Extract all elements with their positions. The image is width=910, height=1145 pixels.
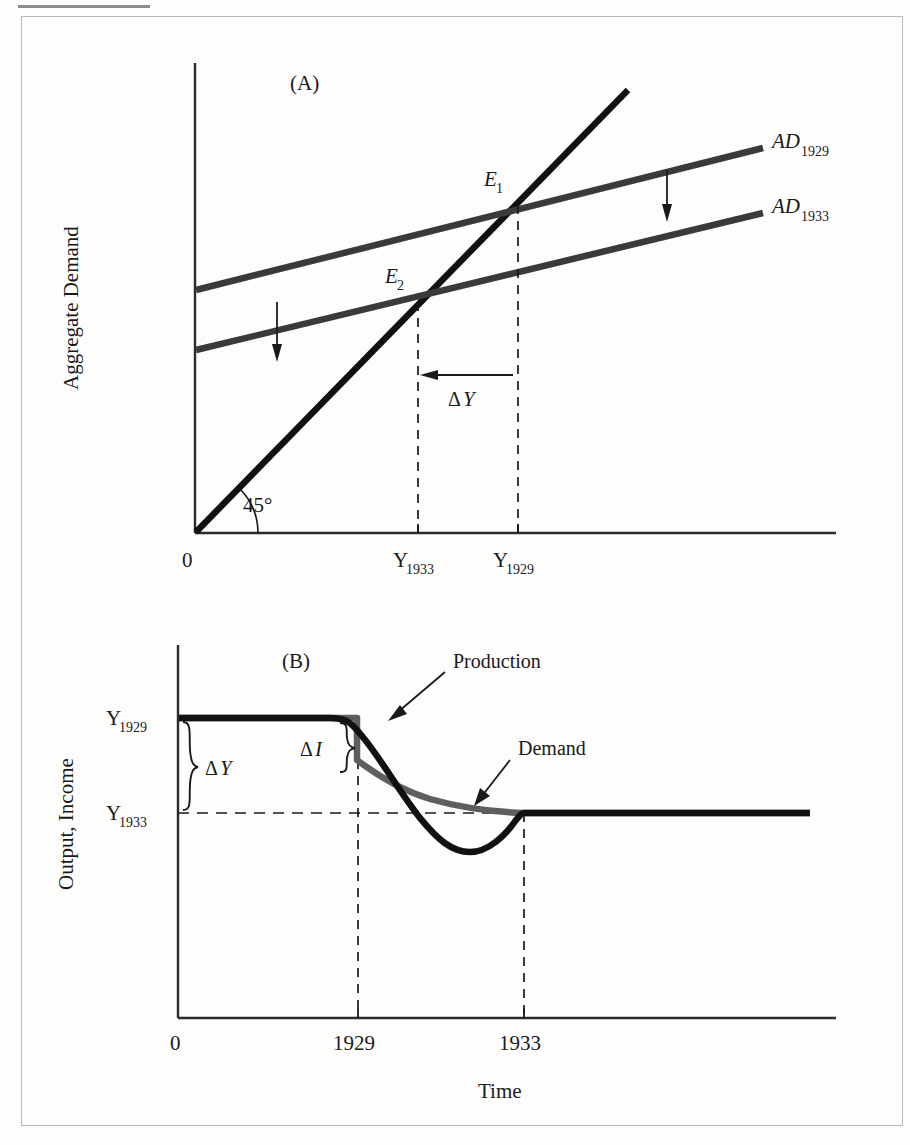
panel-a-label: (A) (290, 71, 319, 95)
panel-a-delta-y-label-delta: Δ (448, 388, 461, 410)
panel-b-demand-curve (179, 718, 810, 813)
panel-b-ytick-label-y1933: Y 1933 (106, 801, 147, 830)
panel-b-label: (B) (282, 649, 310, 673)
panel-a-ad1929-label-sub: 1929 (801, 144, 829, 159)
panel-a-ad1933-line (196, 213, 763, 350)
panel-b-delta-y-label: Δ Y (205, 756, 234, 780)
panel-b: (B) Output, Income Y 1929 Y 1933 Δ Y Δ I… (0, 600, 910, 1145)
panel-b-delta-i-label-delta: Δ (300, 738, 313, 760)
panel-a-down-arrow-right (662, 170, 672, 222)
panel-a-delta-y-arrow (420, 370, 513, 380)
panel-a-ad1933-label: AD 1933 (770, 194, 829, 224)
figure-root: (A) Aggregate Demand E 1 E 2 AD 1929 AD … (0, 0, 910, 1145)
panel-a-ad1929-label: AD 1929 (770, 129, 829, 159)
panel-a-xtick-y1933-sub: 1933 (406, 562, 434, 577)
panel-b-delta-i-brace (340, 723, 355, 772)
panel-b-y-axis-label: Output, Income (54, 758, 78, 890)
panel-b-delta-y-label-delta: Δ (205, 757, 218, 779)
panel-a-45-degree-line (196, 90, 628, 532)
panel-b-production-arrow (388, 672, 445, 721)
panel-a-angle-label: 45° (243, 493, 272, 517)
panel-a: (A) Aggregate Demand E 1 E 2 AD 1929 AD … (0, 0, 910, 600)
panel-b-xtick-label-1933: 1933 (499, 1031, 541, 1055)
panel-b-delta-i-label-var: I (314, 737, 323, 761)
panel-b-demand-label: Demand (518, 737, 586, 759)
panel-b-production-label: Production (453, 650, 541, 672)
panel-a-ad1933-label-base: AD (770, 194, 800, 218)
panel-b-ytick-y1929-sub: 1929 (119, 720, 147, 735)
panel-a-origin-label: 0 (182, 548, 193, 572)
panel-a-y-axis-label: Aggregate Demand (59, 226, 83, 390)
panel-a-xtick-label-y1929: Y 1929 (493, 548, 534, 577)
panel-b-demand-arrow (474, 760, 510, 806)
panel-b-x-axis-label: Time (478, 1079, 522, 1103)
panel-a-label-e2-sub: 2 (397, 278, 404, 293)
panel-b-ytick-y1933-sub: 1933 (119, 815, 147, 830)
panel-a-label-e2-base: E (384, 264, 398, 288)
panel-a-ad1929-line (196, 148, 763, 290)
panel-a-xtick-y1929-sub: 1929 (506, 562, 534, 577)
panel-a-ad1929-label-base: AD (770, 129, 800, 153)
panel-b-xtick-label-1929: 1929 (333, 1031, 375, 1055)
panel-b-delta-y-brace (183, 722, 198, 810)
panel-b-ytick-label-y1929: Y 1929 (106, 706, 147, 735)
panel-b-production-curve (179, 718, 810, 852)
panel-a-xtick-label-y1933: Y 1933 (393, 548, 434, 577)
panel-b-delta-y-label-var: Y (220, 756, 234, 780)
panel-b-delta-i-label: Δ I (300, 737, 323, 761)
panel-a-label-e1: E 1 (483, 167, 503, 196)
panel-b-origin-label: 0 (170, 1031, 181, 1055)
panel-a-label-e1-base: E (483, 167, 497, 191)
panel-a-delta-y-label: Δ Y (448, 387, 477, 411)
panel-a-label-e2: E 2 (384, 264, 404, 293)
panel-a-delta-y-label-var: Y (463, 387, 477, 411)
panel-a-ad1933-label-sub: 1933 (801, 209, 829, 224)
panel-a-label-e1-sub: 1 (496, 181, 503, 196)
